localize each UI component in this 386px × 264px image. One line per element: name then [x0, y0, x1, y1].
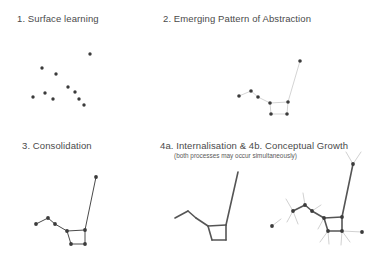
panel-2-plot — [237, 59, 302, 116]
connector-line — [188, 211, 196, 218]
connector-line — [55, 224, 67, 231]
connector-line — [208, 226, 212, 240]
node-dot — [83, 228, 87, 232]
connector-line — [312, 205, 321, 211]
connector-line — [287, 211, 293, 222]
connector-line — [293, 211, 298, 224]
node-dot — [43, 91, 46, 94]
node-dot — [65, 229, 69, 233]
connector-line — [251, 91, 258, 97]
connector-line — [85, 177, 96, 230]
connector-line — [318, 218, 324, 229]
node-dot — [83, 242, 87, 246]
panel-1-plot — [31, 52, 91, 106]
node-dot — [291, 209, 295, 213]
learning-stages-figure: 1. Surface learning 2. Emerging Pattern … — [0, 0, 386, 264]
node-dot — [340, 229, 344, 233]
panel-4-title-block: 4a. Internalisation & 4b. Conceptual Gro… — [160, 140, 348, 160]
connector-line — [270, 103, 271, 114]
node-dot — [351, 162, 355, 166]
node-dot — [322, 216, 326, 220]
connector-line — [286, 199, 293, 211]
panel-3-plot — [34, 175, 98, 246]
node-dot — [249, 89, 253, 93]
panel-2-title: 2. Emerging Pattern of Abstraction — [163, 13, 311, 24]
node-dot — [69, 242, 73, 246]
node-dot — [31, 95, 34, 98]
diagram-canvas — [0, 0, 386, 264]
node-dot — [269, 112, 273, 116]
connector-line — [48, 218, 55, 224]
node-dot — [66, 85, 69, 88]
node-dot — [270, 224, 274, 228]
node-dot — [326, 229, 330, 233]
connector-line — [272, 219, 281, 226]
panel-3-title-block: 3. Consolidation — [22, 140, 92, 151]
connector-line — [293, 205, 305, 211]
connector-line — [287, 102, 288, 114]
connector-line — [353, 152, 361, 164]
connector-line — [258, 97, 270, 103]
node-dot — [40, 66, 43, 69]
connector-line — [67, 231, 71, 244]
connector-line — [342, 231, 350, 242]
node-dot — [237, 94, 241, 98]
node-dot — [53, 222, 57, 226]
node-dot — [54, 72, 57, 75]
node-dot — [256, 95, 260, 99]
connector-line — [270, 102, 288, 103]
node-dot — [360, 230, 364, 234]
connector-line — [312, 211, 324, 218]
node-dot — [310, 209, 314, 213]
connector-line — [226, 172, 238, 225]
node-dot — [46, 216, 50, 220]
connector-line — [303, 193, 305, 205]
connector-line — [175, 211, 188, 218]
panel-1-title: 1. Surface learning — [17, 13, 99, 24]
node-dot — [51, 97, 54, 100]
connector-line — [320, 231, 328, 242]
node-dot — [34, 222, 38, 226]
connector-line — [305, 205, 312, 211]
panel-3-title: 3. Consolidation — [22, 140, 92, 151]
panel-4b-plot — [270, 152, 364, 245]
node-dot — [73, 90, 76, 93]
node-dot — [94, 175, 98, 179]
connector-line — [341, 231, 342, 245]
node-dot — [286, 100, 290, 104]
panel-2-title-block: 2. Emerging Pattern of Abstraction — [163, 13, 311, 24]
node-dot — [303, 203, 307, 207]
connector-line — [324, 217, 342, 218]
connector-line — [342, 164, 353, 217]
node-dot — [298, 59, 302, 63]
connector-line — [328, 231, 329, 244]
panel-4-title: 4a. Internalisation & 4b. Conceptual Gro… — [160, 140, 348, 151]
connector-line — [36, 218, 48, 224]
node-dot — [77, 97, 80, 100]
node-dot — [340, 215, 344, 219]
connector-line — [67, 230, 85, 231]
panel-1-title-block: 1. Surface learning — [17, 13, 99, 24]
panel-4a-plot — [175, 172, 238, 240]
node-dot — [285, 112, 289, 116]
connector-line — [288, 61, 300, 102]
connector-line — [208, 225, 226, 226]
connector-line — [196, 218, 208, 226]
connector-line — [342, 231, 362, 232]
node-dot — [82, 103, 85, 106]
node-dot — [88, 52, 91, 55]
panel-4-subtitle: (both processes may occur simultaneously… — [174, 152, 348, 160]
connector-line — [324, 218, 328, 231]
connector-line — [239, 91, 251, 96]
node-dot — [268, 101, 272, 105]
